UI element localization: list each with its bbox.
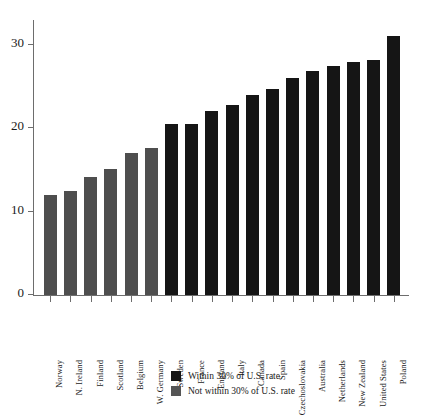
x-axis-category-label: W. Germany xyxy=(155,360,165,404)
y-axis-tick: 10 xyxy=(28,211,34,212)
y-axis-tick: 20 xyxy=(28,127,34,128)
bar xyxy=(367,60,380,295)
chart-legend: Within 30% of U.S. rateNot within 30% of… xyxy=(171,368,411,398)
y-axis-tick: 30 xyxy=(28,44,34,45)
bar xyxy=(266,89,279,295)
bar xyxy=(185,124,198,295)
y-axis-tick-label: 20 xyxy=(11,118,24,134)
legend-item: Within 30% of U.S. rate xyxy=(171,368,411,383)
bar xyxy=(125,153,138,295)
bar xyxy=(104,169,117,295)
legend-label: Within 30% of U.S. rate xyxy=(188,370,280,382)
legend-label: Not within 30% of U.S. rate xyxy=(188,385,295,397)
bar xyxy=(205,111,218,295)
x-axis-category-label: N. Ireland xyxy=(74,360,84,395)
bar xyxy=(64,191,77,295)
y-axis-tick-label: 30 xyxy=(11,35,24,51)
y-axis-tick: 0 xyxy=(28,294,34,295)
bar xyxy=(246,95,259,295)
x-axis-category-label: Norway xyxy=(54,360,64,388)
x-axis-category-label: Belgium xyxy=(135,360,145,390)
x-axis-category-label: Scotland xyxy=(115,360,125,391)
bar xyxy=(286,78,299,295)
y-axis-tick-label: 10 xyxy=(11,202,24,218)
bar xyxy=(387,36,400,295)
legend-item: Not within 30% of U.S. rate xyxy=(171,383,411,398)
bar xyxy=(306,71,319,295)
bar xyxy=(84,177,97,295)
y-axis-tick-label: 0 xyxy=(18,285,25,301)
y-axis-line xyxy=(33,20,34,296)
bar xyxy=(44,195,57,295)
bar xyxy=(165,124,178,295)
legend-swatch-icon xyxy=(171,386,181,396)
plot-area: 0102030 xyxy=(33,20,408,295)
bar xyxy=(327,66,340,295)
bar xyxy=(145,148,158,296)
bar xyxy=(347,62,360,295)
bar xyxy=(226,105,239,295)
legend-swatch-icon xyxy=(171,371,181,381)
x-axis-category-label: Finland xyxy=(95,360,105,387)
x-axis-category-labels: NorwayN. IrelandFinlandScotlandBelgiumW.… xyxy=(33,300,408,362)
